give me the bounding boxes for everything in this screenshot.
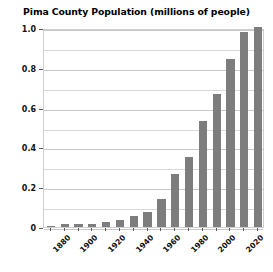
x-axis-tick-mark	[105, 228, 106, 231]
bar	[143, 212, 151, 227]
y-axis-tick-label: 0.2	[22, 184, 36, 193]
x-axis-tick-mark	[64, 228, 65, 231]
x-axis-tick-label: 1920	[98, 233, 127, 262]
x-axis: 18801900192019401960198020002020	[43, 228, 264, 272]
x-axis-tick-mark	[91, 228, 92, 231]
bar	[130, 216, 138, 227]
bar	[61, 224, 69, 227]
x-axis-tick-mark	[160, 228, 161, 231]
x-axis-tick-label: 2000	[209, 233, 238, 262]
x-axis-tick-mark	[202, 228, 203, 231]
y-axis-tick-label: 0	[30, 224, 36, 233]
x-axis-tick-label: 1980	[181, 233, 210, 262]
x-axis-tick-label: 2020	[236, 233, 265, 262]
x-axis-tick-mark	[147, 228, 148, 231]
x-axis-tick-mark	[243, 228, 244, 231]
x-axis-tick-mark	[174, 228, 175, 231]
y-axis-tick-label: 0.8	[22, 64, 36, 73]
x-axis-tick-mark	[229, 228, 230, 231]
bar	[254, 27, 262, 227]
x-axis-tick-mark	[78, 228, 79, 231]
x-axis-tick-mark	[133, 228, 134, 231]
x-axis-tick-mark	[216, 228, 217, 231]
y-axis-tick-label: 1.0	[22, 25, 36, 34]
bar	[199, 121, 207, 227]
x-axis-tick-mark	[188, 228, 189, 231]
x-axis-tick-label: 1900	[71, 233, 100, 262]
plot-area	[43, 29, 264, 228]
bar	[102, 222, 110, 227]
bar	[47, 226, 55, 227]
x-axis-tick-label: 1880	[43, 233, 72, 262]
bar-chart: Pima County Population (millions of peop…	[0, 0, 273, 272]
chart-title: Pima County Population (millions of peop…	[0, 6, 273, 17]
bar	[240, 32, 248, 227]
x-axis-tick-mark	[50, 228, 51, 231]
y-axis-tick-label: 0.6	[22, 104, 36, 113]
x-axis-tick-mark	[119, 228, 120, 231]
bar	[213, 94, 221, 227]
bars-layer	[44, 30, 263, 227]
x-axis-tick-mark	[257, 228, 258, 231]
bar	[157, 199, 165, 227]
bar	[88, 224, 96, 227]
bar	[74, 224, 82, 227]
y-axis-tick-label: 0.4	[22, 144, 36, 153]
bar	[226, 59, 234, 227]
x-axis-tick-label: 1960	[154, 233, 183, 262]
x-axis-tick-label: 1940	[126, 233, 155, 262]
bar	[116, 220, 124, 227]
bar	[171, 174, 179, 227]
bar	[185, 157, 193, 227]
y-axis: 00.20.40.60.81.0	[0, 29, 43, 228]
